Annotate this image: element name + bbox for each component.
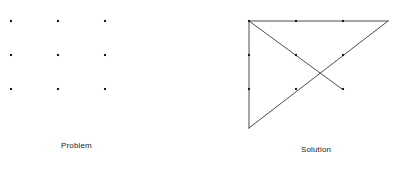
figure-canvas bbox=[0, 0, 403, 178]
nine-dots-figure: Problem Solution bbox=[0, 0, 403, 178]
problem-dot-bottom-center bbox=[57, 88, 59, 90]
solution-caption: Solution bbox=[301, 145, 331, 155]
solution-line-group bbox=[249, 21, 388, 128]
solution-dot-top-left bbox=[248, 20, 250, 22]
problem-dot-bottom-left bbox=[10, 88, 12, 90]
solution-dot-top-right bbox=[342, 20, 344, 22]
solution-dot-bottom-right bbox=[342, 88, 344, 90]
problem-dot-middle-left bbox=[10, 54, 12, 56]
problem-caption: Problem bbox=[61, 141, 92, 151]
solution-dot-middle-left bbox=[248, 54, 250, 56]
solution-dot-bottom-left bbox=[248, 88, 250, 90]
solution-segment-right-ascending-edge bbox=[249, 21, 388, 128]
problem-dot-middle-center bbox=[57, 54, 59, 56]
solution-dot-top-center bbox=[295, 20, 297, 22]
problem-dot-middle-right bbox=[104, 54, 106, 56]
problem-panel bbox=[10, 20, 106, 90]
problem-dot-bottom-right bbox=[104, 88, 106, 90]
solution-dot-bottom-center bbox=[295, 88, 297, 90]
problem-dot-top-left bbox=[10, 20, 12, 22]
problem-dot-top-right bbox=[104, 20, 106, 22]
solution-dot-middle-right bbox=[342, 54, 344, 56]
problem-dot-top-center bbox=[57, 20, 59, 22]
solution-dot-middle-center bbox=[295, 54, 297, 56]
